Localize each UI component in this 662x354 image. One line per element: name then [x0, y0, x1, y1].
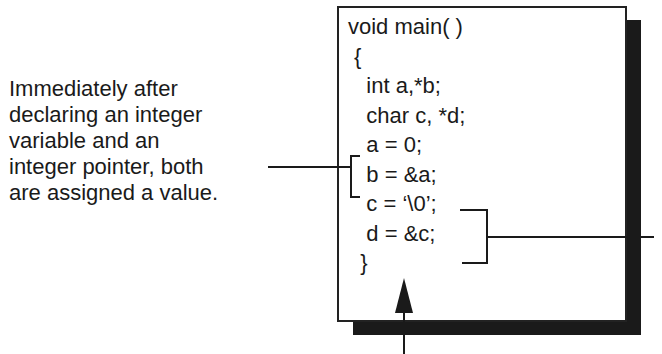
up-arrow-icon [395, 278, 413, 354]
right-bracket [460, 210, 654, 263]
left-bracket [268, 156, 360, 197]
callout-lines [0, 0, 662, 354]
